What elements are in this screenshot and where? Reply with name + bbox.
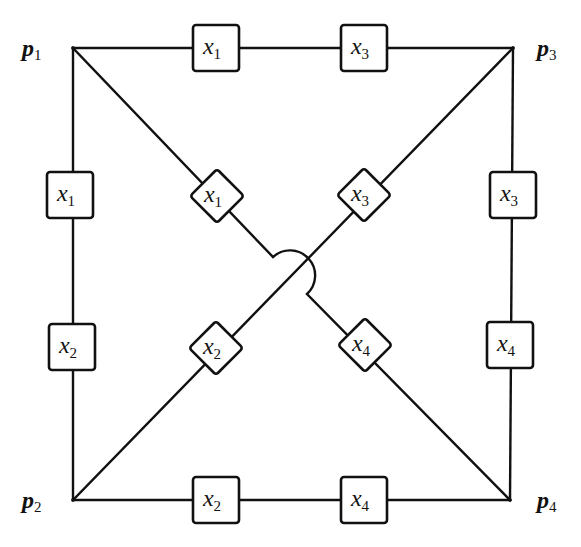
wires bbox=[73, 48, 513, 500]
terminal-node-p2 bbox=[71, 498, 75, 502]
terminal-label-p1: p1 bbox=[20, 35, 42, 63]
wire-right-edge bbox=[510, 48, 513, 500]
terminal-label-p2: p2 bbox=[20, 487, 42, 515]
terminal-node-p3 bbox=[511, 46, 515, 50]
switch-x2-diagonal-p2-p3: x2 bbox=[189, 321, 243, 375]
switch-x2-left-edge: x2 bbox=[49, 324, 95, 370]
terminal-node-p1 bbox=[71, 46, 75, 50]
switch-x4-bottom-edge: x4 bbox=[341, 477, 387, 523]
switch-x1-top-edge: x1 bbox=[193, 25, 239, 71]
terminal-node-p4 bbox=[508, 498, 512, 502]
switch-x4-right-edge: x4 bbox=[487, 322, 533, 368]
switch-x3-diagonal-p2-p3: x3 bbox=[337, 168, 391, 222]
switch-x3-right-edge: x3 bbox=[490, 172, 536, 218]
network-diagram: x1x3x1x2x3x4x2x4x1x4x2x3 p1p3p2p4 bbox=[0, 0, 581, 547]
switch-x4-diagonal-p1-p4: x4 bbox=[338, 318, 392, 372]
switch-x3-top-edge: x3 bbox=[341, 25, 387, 71]
terminal-labels: p1p3p2p4 bbox=[20, 35, 557, 515]
terminal-label-p3: p3 bbox=[535, 35, 557, 63]
terminal-label-p4: p4 bbox=[535, 487, 557, 515]
switch-x1-left-edge: x1 bbox=[47, 172, 93, 218]
switch-x2-bottom-edge: x2 bbox=[193, 477, 239, 523]
